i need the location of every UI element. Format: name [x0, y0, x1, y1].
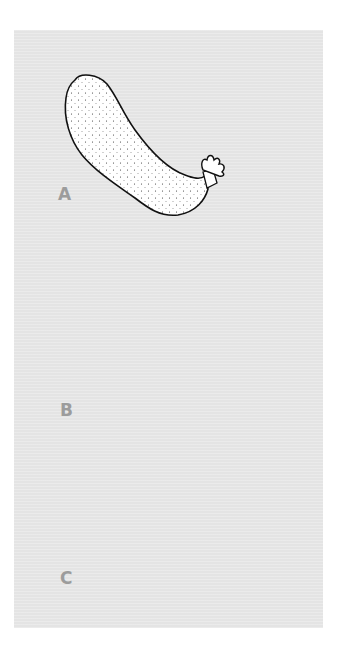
- illustration: [0, 0, 346, 650]
- panel-label-b: B: [60, 400, 73, 420]
- panel-label-a: A: [58, 184, 71, 204]
- specimen-a: [65, 75, 224, 215]
- panel-label-c: C: [60, 568, 72, 588]
